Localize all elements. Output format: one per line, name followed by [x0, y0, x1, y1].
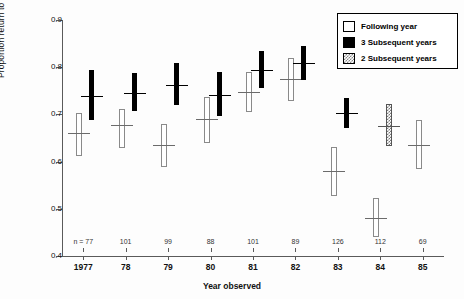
x-axis-title: Year observed	[0, 281, 464, 291]
x-tick-mark	[253, 256, 254, 260]
mean-marker-following	[111, 125, 133, 126]
sample-size-tick	[168, 248, 169, 252]
error-bar-subseq3	[132, 73, 137, 110]
y-axis-line	[62, 20, 63, 257]
x-tick-label: 84	[360, 262, 400, 272]
sample-size-tick	[126, 248, 127, 252]
sample-size-tick	[253, 248, 254, 252]
x-tick-mark	[211, 256, 212, 260]
x-tick-mark	[83, 256, 84, 260]
legend-label: 3 Subsequent years	[361, 38, 437, 47]
x-tick-label: 78	[106, 262, 146, 272]
x-tick-label: 79	[148, 262, 188, 272]
mean-marker-following	[280, 79, 302, 80]
y-tick-label-wrap: 0.4	[0, 252, 62, 260]
chart-legend: Following year3 Subsequent years2 Subseq…	[337, 13, 458, 69]
x-tick-label: 85	[403, 262, 443, 272]
y-tick-label-wrap: 0.5	[0, 205, 62, 213]
sample-size-tick	[380, 248, 381, 252]
mean-marker-subseq2	[378, 126, 400, 127]
mean-marker-subseq3	[336, 113, 358, 114]
y-tick-label-wrap: 0.8	[0, 63, 62, 71]
mean-marker-subseq3	[293, 63, 315, 64]
legend-row: Following year	[343, 18, 452, 34]
x-tick-label: 83	[318, 262, 358, 272]
sample-size-label: 69	[395, 238, 451, 245]
mean-marker-subseq3	[251, 70, 273, 71]
y-axis-title: Proportion return to pup	[0, 0, 6, 78]
x-tick-label: 80	[191, 262, 231, 272]
y-tick-label-wrap: 0.7	[0, 110, 62, 118]
legend-row: 2 Subsequent years	[343, 50, 452, 66]
x-tick-mark	[295, 256, 296, 260]
mean-marker-following	[196, 119, 218, 120]
x-tick-label: 1977	[63, 262, 103, 272]
y-tick-label: 0.6	[36, 158, 62, 166]
x-tick-label: 81	[233, 262, 273, 272]
sample-size-tick	[338, 248, 339, 252]
sample-size-tick	[295, 248, 296, 252]
x-tick-label: 82	[275, 262, 315, 272]
x-tick-mark	[423, 256, 424, 260]
y-tick-label: 0.9	[36, 16, 62, 24]
error-bar-following	[119, 109, 125, 149]
legend-swatch-following	[343, 21, 355, 32]
x-tick-mark	[126, 256, 127, 260]
legend-swatch-subseq3	[343, 37, 355, 48]
sample-size-tick	[211, 248, 212, 252]
x-tick-mark	[338, 256, 339, 260]
mean-marker-following	[365, 218, 387, 219]
sample-size-tick	[83, 248, 84, 252]
mean-marker-following	[153, 145, 175, 146]
mean-marker-following	[408, 145, 430, 146]
mean-marker-following	[323, 171, 345, 172]
chart-figure: 0.90.80.70.60.50.4 Proportion return to …	[0, 0, 464, 299]
mean-marker-following	[68, 133, 90, 134]
legend-row: 3 Subsequent years	[343, 34, 452, 50]
x-tick-mark	[168, 256, 169, 260]
legend-label: Following year	[361, 22, 417, 31]
legend-swatch-subseq2	[343, 53, 355, 64]
y-tick-label: 0.8	[36, 63, 62, 71]
mean-marker-subseq3	[166, 85, 188, 86]
y-tick-label-wrap: 0.9	[0, 16, 62, 24]
mean-marker-subseq3	[124, 93, 146, 94]
y-tick-label-wrap: 0.6	[0, 158, 62, 166]
legend-label: 2 Subsequent years	[361, 54, 437, 63]
sample-size-tick	[423, 248, 424, 252]
x-tick-mark	[380, 256, 381, 260]
mean-marker-subseq3	[209, 95, 231, 96]
y-tick-label: 0.4	[36, 252, 62, 260]
mean-marker-following	[238, 92, 260, 93]
y-tick-label: 0.7	[36, 110, 62, 118]
error-bar-following	[76, 113, 82, 155]
y-tick-label: 0.5	[36, 205, 62, 213]
mean-marker-subseq3	[81, 96, 103, 97]
